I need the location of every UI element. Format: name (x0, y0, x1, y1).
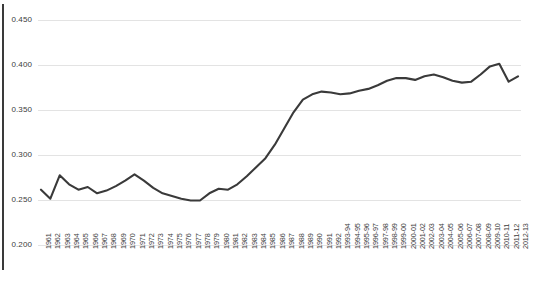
x-axis-tick-label: 1989 (306, 233, 315, 249)
x-axis-tick-label: 2010-11 (502, 224, 511, 249)
x-axis-tick-label: 1972 (147, 233, 156, 249)
x-axis-tick-label: 1976 (184, 233, 193, 249)
x-axis-tick-label: 1968 (109, 233, 118, 249)
x-axis-tick-label: 2011-12 (512, 224, 521, 249)
x-axis-tick-label: 1978 (203, 233, 212, 249)
x-axis-tick-label: 1963 (63, 233, 72, 249)
x-axis-tick-label: 1990 (315, 233, 324, 249)
x-axis-tick-label: 1997-98 (381, 223, 390, 249)
x-axis-tick-label: 1996-97 (371, 223, 380, 249)
y-axis-tick-label: 0.200 (2, 240, 32, 249)
x-axis-tick-label: 1961 (44, 233, 53, 249)
x-axis-tick-label: 1969 (119, 233, 128, 249)
x-axis-tick-label: 2007-08 (474, 223, 483, 249)
y-axis-tick-label: 0.450 (2, 15, 32, 24)
y-axis-tick-label: 0.250 (2, 195, 32, 204)
x-axis-tick-label: 2003-04 (437, 223, 446, 249)
x-axis-tick-label: 1973 (156, 233, 165, 249)
x-axis-tick-label: 1977 (194, 233, 203, 249)
x-axis-tick-label: 1982 (240, 233, 249, 249)
x-axis-tick-label: 1986 (278, 233, 287, 249)
x-axis-tick-label: 1964 (72, 233, 81, 249)
x-axis-tick-label: 1987 (287, 233, 296, 249)
x-axis-tick-label: 1962 (53, 233, 62, 249)
x-axis-tick-label: 1999-00 (399, 223, 408, 249)
x-axis-tick-label: 2008-09 (484, 223, 493, 249)
y-axis-tick-label: 0.350 (2, 105, 32, 114)
x-axis-tick-label: 1983 (250, 233, 259, 249)
x-axis-tick-label: 2004-05 (446, 223, 455, 249)
x-axis-tick-label: 1966 (91, 233, 100, 249)
gridlines (38, 21, 521, 246)
x-axis-tick-label: 1975 (175, 233, 184, 249)
x-axis-tick-label: 1965 (81, 233, 90, 249)
x-axis-tick-label: 1981 (231, 233, 240, 249)
data-series-line (41, 64, 518, 201)
x-axis-tick-label: 1979 (212, 233, 221, 249)
x-axis-tick-label: 2000-01 (409, 223, 418, 249)
y-axis-tick-label: 0.400 (2, 60, 32, 69)
x-axis-tick-label: 1980 (222, 233, 231, 249)
x-axis-tick-label: 2005-06 (456, 223, 465, 249)
x-axis-tick-label: 1991 (325, 233, 334, 249)
x-axis-tick-label: 1988 (297, 233, 306, 249)
chart-container: 0.2000.2500.3000.3500.4000.450 196119621… (0, 0, 533, 286)
x-axis-tick-label: 2009-10 (493, 223, 502, 249)
x-axis-tick-label: 1994-95 (353, 223, 362, 249)
x-axis-tick-label: 2012-13 (521, 223, 530, 249)
x-axis-tick-label: 1985 (268, 233, 277, 249)
x-axis-tick-label: 1995-96 (362, 223, 371, 249)
x-axis-tick-label: 1974 (166, 233, 175, 249)
x-axis-tick-label: 1984 (259, 233, 268, 249)
y-axis-tick-label: 0.300 (2, 150, 32, 159)
x-axis-tick-label: 1993-94 (343, 223, 352, 249)
x-axis-tick-label: 2002-03 (427, 223, 436, 249)
x-axis-tick-label: 2006-07 (465, 223, 474, 249)
x-axis-tick-label: 1967 (100, 233, 109, 249)
x-axis-tick-label: 1998-99 (390, 223, 399, 249)
x-axis-tick-label: 1971 (138, 233, 147, 249)
x-axis-tick-label: 1992 (334, 233, 343, 249)
x-axis-tick-label: 1970 (128, 233, 137, 249)
x-axis-tick-label: 2001-02 (418, 223, 427, 249)
